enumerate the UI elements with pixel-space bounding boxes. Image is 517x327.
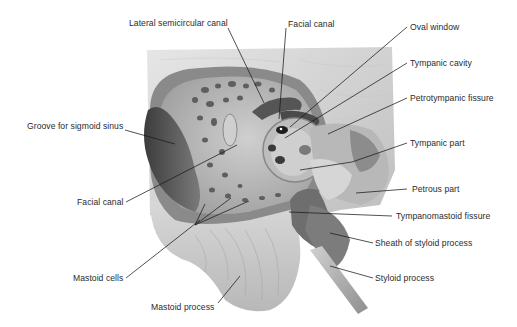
label-tympanomastoid-fissure: Tympanomastoid fissure <box>396 211 490 221</box>
label-facial-canal-left: Facial canal <box>77 197 123 207</box>
label-petrotympanic-fissure: Petrotympanic fissure <box>410 93 494 103</box>
label-mastoid-process: Mastoid process <box>151 302 214 312</box>
label-mastoid-cells: Mastoid cells <box>73 273 123 283</box>
temporal-bone-diagram: Lateral semicircular canal Facial canal … <box>0 0 517 327</box>
label-lateral-semicircular-canal: Lateral semicircular canal <box>129 18 228 28</box>
label-tympanic-part: Tympanic part <box>410 138 465 148</box>
label-tympanic-cavity: Tympanic cavity <box>410 58 472 68</box>
label-oval-window: Oval window <box>410 22 459 32</box>
oval-window-shape <box>276 126 288 134</box>
label-petrous-part: Petrous part <box>412 184 459 194</box>
label-sheath-styloid-process: Sheath of styloid process <box>375 238 472 248</box>
label-styloid-process: Styloid process <box>375 273 434 283</box>
label-facial-canal-top: Facial canal <box>288 19 334 29</box>
label-groove-sigmoid-sinus: Groove for sigmoid sinus <box>27 121 123 131</box>
